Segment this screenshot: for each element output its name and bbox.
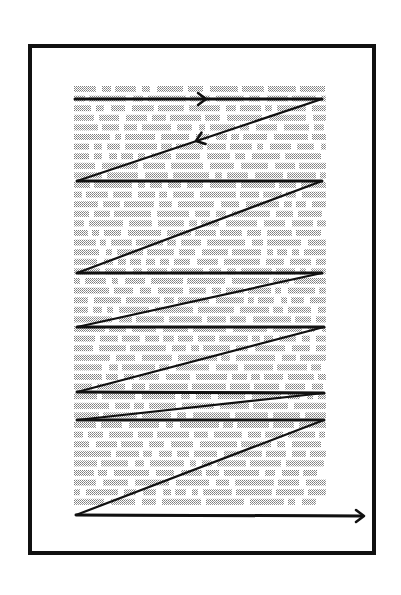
greeked-word <box>74 192 82 198</box>
greeked-word <box>294 403 326 409</box>
greeked-word <box>149 384 188 390</box>
greeked-word <box>114 470 149 476</box>
z-pattern-diagram <box>0 0 401 595</box>
greeked-word <box>74 460 97 466</box>
greeked-word <box>74 432 83 438</box>
greeked-word <box>220 230 242 236</box>
greeked-word <box>266 259 284 265</box>
greeked-word <box>237 422 269 428</box>
greeked-word <box>252 240 263 246</box>
greeked-word <box>175 489 186 495</box>
greeked-word <box>101 422 122 428</box>
greeked-word <box>194 451 217 457</box>
greeked-word <box>253 403 288 409</box>
greeked-word <box>160 259 169 265</box>
greeked-word <box>162 499 201 505</box>
greeked-word <box>241 163 268 169</box>
greeked-word <box>124 124 137 130</box>
greeked-word <box>158 288 183 294</box>
greeked-word <box>177 124 192 130</box>
greeked-word <box>106 374 118 380</box>
greeked-word <box>130 259 141 265</box>
greeked-word <box>74 144 89 150</box>
greeked-word <box>273 412 300 418</box>
greeked-word <box>288 288 315 294</box>
greeked-word <box>240 307 269 313</box>
greeked-word <box>285 153 321 159</box>
greeked-word <box>210 86 238 92</box>
greeked-word <box>145 336 159 342</box>
greeked-word <box>129 220 152 226</box>
greeked-word <box>268 86 296 92</box>
greeked-word <box>273 307 283 313</box>
greeked-word <box>122 364 155 370</box>
greeked-word <box>296 230 321 236</box>
greeked-word <box>298 211 322 217</box>
greeked-word <box>195 211 210 217</box>
greeked-word <box>74 211 89 217</box>
greeked-word <box>173 192 194 198</box>
greeked-word <box>115 403 130 409</box>
greeked-word <box>98 470 107 476</box>
greeked-word <box>132 384 145 390</box>
greeked-word <box>216 211 226 217</box>
greeked-word <box>109 364 118 370</box>
greeked-word <box>308 489 326 495</box>
greeked-word <box>275 288 281 294</box>
greeked-word <box>176 153 200 159</box>
greeked-word <box>265 470 275 476</box>
greeked-word <box>74 403 109 409</box>
greeked-word <box>74 288 109 294</box>
greeked-word <box>114 288 133 294</box>
greeked-word <box>277 441 285 447</box>
greeked-word <box>266 451 286 457</box>
greeked-word <box>107 144 120 150</box>
greeked-word <box>226 105 236 111</box>
greeked-word <box>126 297 160 303</box>
greeked-word <box>230 144 252 150</box>
greeked-word <box>142 86 150 92</box>
greeked-word <box>143 163 165 169</box>
greeked-word <box>311 364 321 370</box>
greeked-word <box>312 384 323 390</box>
greeked-word <box>74 422 96 428</box>
greeked-word <box>251 374 260 380</box>
greeked-word <box>230 316 246 322</box>
greeked-word <box>227 172 248 178</box>
greeked-word <box>219 336 248 342</box>
greeked-word <box>282 470 299 476</box>
greeked-word <box>103 201 120 207</box>
greeked-word <box>241 182 275 188</box>
greeked-word <box>74 134 110 140</box>
greeked-word <box>277 364 307 370</box>
greeked-word <box>132 105 154 111</box>
greeked-word <box>177 451 189 457</box>
greeked-word <box>312 105 326 111</box>
greeked-word <box>163 336 174 342</box>
greeked-word <box>308 240 326 246</box>
greeked-word <box>115 86 136 92</box>
greeked-word <box>134 403 144 409</box>
greeked-word <box>247 230 261 236</box>
greeked-word <box>159 192 167 198</box>
greeked-word <box>242 86 264 92</box>
greeked-word <box>212 288 221 294</box>
greeked-word <box>291 297 304 303</box>
greeked-word <box>216 364 238 370</box>
greeked-word <box>284 124 309 130</box>
greeked-word <box>206 499 244 505</box>
greeked-word <box>191 345 199 351</box>
greeked-word <box>236 489 272 495</box>
greeked-word <box>240 192 259 198</box>
greeked-word <box>169 316 202 322</box>
greeked-word <box>248 297 254 303</box>
greeked-word <box>74 355 110 361</box>
greeked-word <box>99 115 119 121</box>
greeked-word <box>288 499 295 505</box>
greeked-word <box>235 480 274 486</box>
greeked-word <box>121 441 143 447</box>
greeked-word <box>157 432 189 438</box>
greeked-word <box>140 288 151 294</box>
greeked-word <box>281 297 287 303</box>
greeked-word <box>187 182 203 188</box>
